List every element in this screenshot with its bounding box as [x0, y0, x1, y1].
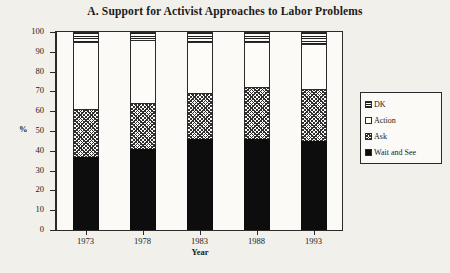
stacked-bar-1993[interactable]: [301, 32, 327, 230]
x-axis-tick-mark: [200, 231, 201, 235]
y-axis-tick-label: 20: [36, 184, 45, 195]
bar-group: [73, 32, 99, 230]
chart-legend: DKActionAskWait and See: [360, 92, 442, 164]
y-axis-tick-label: 60: [36, 105, 45, 116]
x-axis-tick-mark: [143, 231, 144, 235]
y-axis-tick-label: 0: [40, 224, 44, 235]
legend-swatch-icon: [365, 101, 372, 108]
chart-figure: A. Support for Activist Approaches to La…: [0, 0, 450, 273]
y-axis-tick-label: 10: [36, 204, 45, 215]
stacked-bar-1978[interactable]: [130, 32, 156, 230]
x-axis-tick-label: 1978: [123, 236, 163, 246]
legend-swatch-icon: [365, 133, 372, 140]
bar-segment-wait-and-see: [244, 139, 270, 230]
chart-title: A. Support for Activist Approaches to La…: [0, 5, 450, 17]
x-axis-tick-mark: [86, 231, 87, 235]
bar-segment-dk: [301, 32, 327, 44]
bar-segment-dk: [187, 32, 213, 42]
x-axis-tick-label: 1993: [294, 236, 334, 246]
bar-segment-ask: [244, 87, 270, 138]
bar-group: [244, 32, 270, 230]
bar-segment-wait-and-see: [301, 141, 327, 230]
bar-segment-ask: [301, 89, 327, 140]
x-axis-tick-mark: [257, 231, 258, 235]
bar-segment-action: [301, 44, 327, 90]
legend-item-label: Action: [374, 116, 396, 125]
x-axis-tick-label: 1983: [180, 236, 220, 246]
legend-swatch-icon: [365, 149, 372, 156]
legend-item-label: DK: [374, 100, 386, 109]
y-axis-tick-label: 70: [36, 85, 45, 96]
legend-item[interactable]: Ask: [365, 130, 438, 142]
y-axis-tick-label: 50: [36, 125, 45, 136]
bar-segment-action: [130, 40, 156, 103]
bar-segment-action: [244, 42, 270, 88]
bar-group: [301, 32, 327, 230]
bar-segment-ask: [73, 109, 99, 157]
y-axis-title: %: [19, 124, 28, 134]
bar-group: [130, 32, 156, 230]
bar-segment-action: [187, 42, 213, 93]
bar-segment-ask: [187, 93, 213, 139]
bars-layer: [57, 32, 342, 230]
bar-segment-wait-and-see: [130, 149, 156, 230]
stacked-bar-1983[interactable]: [187, 32, 213, 230]
y-axis: 0102030405060708090100: [0, 31, 56, 231]
y-axis-tick-label: 100: [31, 26, 44, 37]
legend-item-label: Ask: [374, 132, 387, 141]
x-axis-tick-mark: [314, 231, 315, 235]
bar-segment-wait-and-see: [187, 139, 213, 230]
legend-swatch-icon: [365, 117, 372, 124]
bar-segment-action: [73, 42, 99, 109]
bar-segment-dk: [73, 32, 99, 42]
x-axis-tick-label: 1973: [66, 236, 106, 246]
stacked-bar-1988[interactable]: [244, 32, 270, 230]
y-axis-tick-label: 30: [36, 165, 45, 176]
bar-segment-ask: [130, 103, 156, 149]
legend-item[interactable]: Wait and See: [365, 146, 438, 158]
legend-item[interactable]: DK: [365, 98, 438, 110]
y-axis-tick-label: 80: [36, 66, 45, 77]
x-axis-tick-label: 1988: [237, 236, 277, 246]
bar-segment-dk: [244, 32, 270, 42]
legend-item[interactable]: Action: [365, 114, 438, 126]
stacked-bar-1973[interactable]: [73, 32, 99, 230]
x-axis-title: Year: [0, 247, 400, 257]
bar-segment-wait-and-see: [73, 157, 99, 230]
legend-item-label: Wait and See: [374, 148, 416, 157]
y-axis-tick-label: 40: [36, 145, 45, 156]
bar-segment-dk: [130, 32, 156, 40]
y-axis-tick-label: 90: [36, 46, 45, 57]
bar-group: [187, 32, 213, 230]
